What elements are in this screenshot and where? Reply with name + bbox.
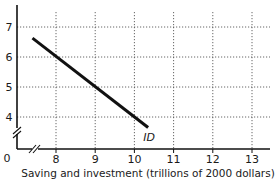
origin-label: 0 [4, 152, 11, 165]
x-axis-title: Saving and investment (trillions of 2000… [21, 167, 274, 179]
chart: 8910111213 4567 0 ID Saving and investme… [0, 0, 277, 180]
y-tick-label: 4 [6, 111, 13, 124]
x-tick-label: 8 [53, 153, 60, 166]
x-tick-labels: 8910111213 [53, 153, 260, 166]
y-tick-label: 7 [6, 21, 13, 34]
x-tick-label: 9 [92, 153, 99, 166]
id-curve [32, 38, 148, 127]
series: ID [32, 38, 154, 143]
y-tick-labels: 4567 [6, 21, 13, 124]
x-tick-label: 12 [206, 153, 220, 166]
x-tick-label: 10 [127, 153, 141, 166]
y-tick-label: 5 [6, 81, 13, 94]
id-curve-label: ID [143, 131, 155, 144]
x-tick-label: 13 [245, 153, 259, 166]
y-tick-label: 6 [6, 51, 13, 64]
x-tick-label: 11 [167, 153, 181, 166]
